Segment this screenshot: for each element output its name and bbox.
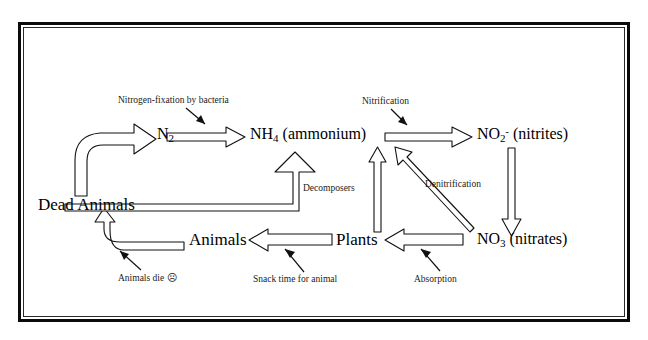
label-denitrification: Denitrification [425,180,481,190]
arrow-no3-to-nh4-denitrification [395,147,474,232]
arrow-plants-to-nh4 [369,147,386,232]
label-nitrogen-fixation: Nitrogen-fixation by bacteria [118,96,229,106]
pointer-snack [285,249,304,272]
node-nh4: NH4 (ammonium) [250,126,366,144]
pointer-absorption [421,249,440,271]
nitrogen-cycle-diagram: N2 NH4 (ammonium) NO2- (nitrites) NO3 (n… [0,0,648,340]
pointer-animals-die [120,251,141,270]
pointer-fixation [186,108,205,124]
arrow-no3-to-plants [385,229,463,251]
label-animals-die: Animals die ☹ [118,273,177,284]
label-decomposers: Decomposers [303,184,355,194]
arrow-nh4-to-no2 [385,127,472,147]
sad-face-icon: ☹ [167,272,177,283]
arrow-n2-to-nh4 [167,127,245,147]
arrow-plants-to-animals [249,229,332,251]
arrow-no2-to-no3 [502,148,521,236]
label-nitrification: Nitrification [362,97,409,107]
arrow-dead-animals-to-n2 [75,124,156,196]
node-no3-nitrates: NO3 (nitrates) [477,231,567,249]
pointer-nitrification [391,109,407,125]
node-animals: Animals [189,231,247,248]
label-absorption: Absorption [414,275,457,285]
arrow-animals-to-dead-animals [95,208,184,250]
node-no2-nitrites: NO2- (nitrites) [477,126,568,144]
node-dead-animals: Dead Animals [38,196,135,213]
node-plants: Plants [336,231,378,248]
node-n2: N2 [157,126,174,144]
label-snack-time: Snack time for animal [253,275,337,285]
diagram-arrows-layer [0,0,648,340]
